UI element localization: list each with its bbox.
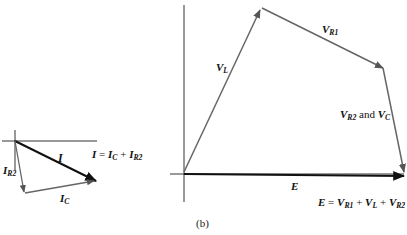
label-IR2: IR2 <box>3 165 16 178</box>
phasor-IR2 <box>15 141 24 192</box>
label-VR2-and-VC: VR2 and VC <box>340 109 390 122</box>
label-VL: VL <box>216 62 228 75</box>
label-IC: IC <box>60 193 69 206</box>
phasor-VL <box>184 10 260 172</box>
phasor-I <box>15 141 96 181</box>
equation-voltage: E = VR1 + VL + VR2 <box>318 197 405 210</box>
phasor-VR1 <box>262 8 383 68</box>
label-E: E <box>291 181 298 192</box>
equation-current: I = IC + IR2 <box>92 149 142 162</box>
right-axes <box>170 5 404 202</box>
label-VR1: VR1 <box>322 24 338 37</box>
figure-caption: (b) <box>196 217 209 229</box>
phasor-diagram-figure: I IR2 IC I = IC + IR2 VL VR1 VR2 and VC … <box>0 0 407 235</box>
label-I: I <box>58 152 63 164</box>
